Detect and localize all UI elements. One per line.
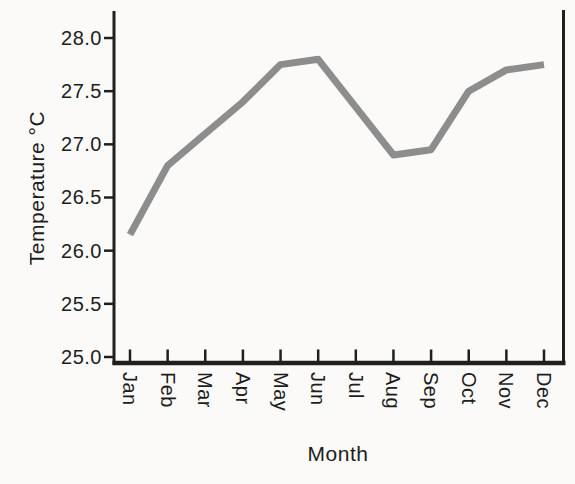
y-tick-label: 25.0: [38, 346, 102, 368]
y-tick-label: 27.5: [38, 80, 102, 102]
x-tick-label: Dec: [533, 372, 554, 409]
temperature-line-chart: 28.0 27.5 27.0 26.5 26.0 25.5 25.0 Jan F…: [0, 0, 575, 484]
x-tick-label: Apr: [232, 372, 253, 405]
y-tick-label: 25.5: [38, 293, 102, 315]
x-tick-label: Jul: [345, 372, 366, 399]
x-tick-label: May: [270, 372, 291, 411]
x-tick-label: Feb: [157, 372, 178, 408]
x-tick-label: Oct: [458, 372, 479, 405]
x-tick-label: Jun: [307, 372, 328, 406]
x-tick-label: Mar: [194, 372, 215, 408]
x-tick-label: Nov: [495, 372, 516, 409]
x-axis-title: Month: [308, 442, 369, 466]
x-tick-label: Jan: [119, 372, 140, 406]
y-tick-label: 28.0: [38, 27, 102, 49]
temperature-line-series: [130, 59, 544, 234]
y-axis-title: Temperature °C: [25, 111, 49, 265]
x-tick-label: Sep: [420, 372, 441, 409]
x-tick-label: Aug: [382, 372, 403, 409]
